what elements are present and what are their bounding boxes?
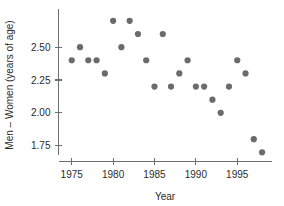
data-point	[201, 83, 207, 89]
y-tick-label: 2.50	[31, 42, 51, 53]
scatter-plot-figure: 1.752.002.252.50 19751980198519901995 Ye…	[0, 0, 284, 206]
data-point	[242, 70, 248, 76]
data-point	[77, 44, 83, 50]
data-point	[176, 70, 182, 76]
y-tick-label: 1.75	[31, 140, 51, 151]
x-tick-label: 1980	[102, 169, 125, 180]
data-point	[135, 31, 141, 37]
data-point	[184, 57, 190, 63]
x-tick-label: 1990	[185, 169, 208, 180]
chart-canvas: 1.752.002.252.50 19751980198519901995 Ye…	[0, 0, 284, 206]
data-point	[160, 31, 166, 37]
data-point	[127, 18, 133, 24]
data-point	[69, 57, 75, 63]
data-point	[151, 83, 157, 89]
data-point	[259, 149, 265, 155]
y-axis-title: Men – Women (years of age)	[4, 20, 15, 149]
data-point	[168, 83, 174, 89]
x-tick-label: 1975	[61, 169, 84, 180]
data-point	[110, 18, 116, 24]
data-point	[102, 70, 108, 76]
data-point	[143, 57, 149, 63]
data-point	[209, 97, 215, 103]
y-tick-label: 2.00	[31, 107, 51, 118]
data-point	[85, 57, 91, 63]
data-point	[218, 110, 224, 116]
data-point	[251, 136, 257, 142]
data-point	[234, 57, 240, 63]
data-point	[226, 83, 232, 89]
data-point	[193, 83, 199, 89]
data-point	[93, 57, 99, 63]
x-tick-label: 1985	[143, 169, 166, 180]
y-tick-label: 2.25	[31, 75, 51, 86]
data-point	[118, 44, 124, 50]
x-axis-title: Year	[155, 191, 176, 202]
x-tick-label: 1995	[226, 169, 249, 180]
